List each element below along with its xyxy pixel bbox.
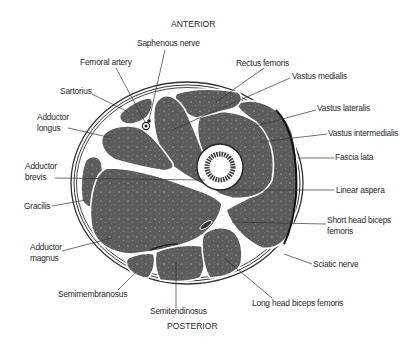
semitendinosus-shape <box>155 245 205 281</box>
adductor-brevis-label-line1: Adductor <box>25 161 57 171</box>
gracilis-label: Gracilis <box>24 201 50 211</box>
femur-bone <box>197 144 243 190</box>
long-head-biceps-shape <box>202 228 242 278</box>
adductor-longus-label-line1: Adductor <box>37 112 69 122</box>
linear-aspera-label: Linear aspera <box>336 185 385 195</box>
vastus-medialis-label: Vastus medialis <box>292 71 347 81</box>
sartorius-label: Sartorius <box>60 86 92 96</box>
fascia-lata-label: Fascia lata <box>335 152 373 162</box>
long-head-biceps-label: Long head biceps femoris <box>252 298 343 308</box>
sciatic-nerve-label: Sciatic nerve <box>313 259 358 269</box>
short-head-biceps-label-line2: femoris <box>327 226 353 236</box>
adductor-longus-label-line2: longus <box>37 123 60 133</box>
semimembranosus-label: Semimembranosus <box>58 289 127 299</box>
adductor-magnus-label-line2: magnus <box>30 253 59 263</box>
semimembranosus-shape <box>127 253 155 278</box>
vastus-intermedialis-label: Vastus intermedialis <box>328 128 398 138</box>
semitendinosus-label: Semitendinosus <box>150 306 207 316</box>
anterior-label: ANTERIOR <box>171 19 215 29</box>
posterior-label: POSTERIOR <box>167 321 218 331</box>
thigh-cross-section-diagram: ANTERIOR Saphenous nerve Femoral artery … <box>0 0 416 344</box>
saphenous-nerve-label: Saphenous nerve <box>137 38 200 48</box>
short-head-biceps-label-line1: Short head biceps <box>327 215 391 225</box>
femoral-artery-label: Femoral artery <box>80 57 132 67</box>
rectus-femoris-label: Rectus femoris <box>236 58 289 68</box>
adductor-magnus-label-line1: Adductor <box>30 242 62 252</box>
adductor-brevis-label-line2: brevis <box>25 172 46 182</box>
vastus-lateralis-label: Vastus lateralis <box>317 103 370 113</box>
